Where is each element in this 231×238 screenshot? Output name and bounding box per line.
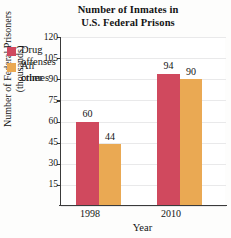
x-tick-label-2010: 2010 — [143, 208, 199, 220]
y-tick-label-120: 120 — [44, 31, 58, 44]
bar-2010-drug-offenses[interactable] — [157, 74, 180, 206]
legend-swatch-drug-offenses-icon — [7, 47, 16, 56]
bar-2010-all-other-crimes[interactable] — [180, 79, 202, 206]
y-tick-label-15: 15 — [49, 178, 59, 191]
chart-title-line-1: Number of Inmates in — [78, 4, 179, 15]
x-axis-title: Year — [60, 221, 225, 234]
chart-figure: Number of Inmates in U.S. Federal Prison… — [0, 0, 231, 238]
bar-value-2010-other: 90 — [178, 66, 204, 78]
legend-label-all-other-crimes-line-2: crimes — [21, 72, 49, 84]
bar-1998-all-other-crimes[interactable] — [99, 144, 121, 206]
bar-1998-drug-offenses[interactable] — [76, 122, 99, 207]
legend-swatch-all-other-crimes-icon — [7, 63, 16, 72]
bar-value-1998-drug: 60 — [74, 108, 101, 120]
gridline-105 — [61, 58, 226, 59]
y-tick-label-45: 45 — [49, 136, 59, 149]
plot-area: 15 30 45 60 75 90 105 120 — [60, 37, 225, 206]
y-tick-label-30: 30 — [49, 157, 59, 170]
bar-value-1998-other: 44 — [97, 131, 123, 143]
x-axis-line — [59, 205, 227, 206]
y-tick-label-75: 75 — [49, 94, 59, 107]
chart-title: Number of Inmates in U.S. Federal Prison… — [38, 4, 218, 29]
y-tick-label-90: 90 — [49, 73, 59, 86]
gridline-120 — [61, 37, 226, 38]
x-tick-label-1998: 1998 — [62, 208, 118, 220]
chart-title-line-2: U.S. Federal Prisons — [38, 17, 218, 30]
y-tick-label-60: 60 — [49, 115, 59, 128]
y-axis-title-line-1: Number of Federal Prisoners — [2, 0, 14, 149]
